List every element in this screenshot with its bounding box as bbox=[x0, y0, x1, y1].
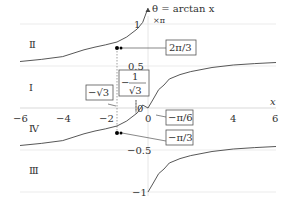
annotation-minus-pi6: −π/6 bbox=[166, 110, 193, 125]
svg-text:−π/6: −π/6 bbox=[168, 112, 193, 123]
svg-text:√3: √3 bbox=[129, 85, 142, 96]
curve-branch-3 bbox=[148, 147, 276, 193]
y-unit-label: ×π bbox=[153, 16, 165, 25]
region-4-label: Ⅳ bbox=[29, 123, 40, 134]
curve-branch-4 bbox=[20, 105, 148, 146]
arctan-chart: 1 0.5 0 −0.5 −1 −6 −4 −2 0 4 6 x θ = arc… bbox=[0, 0, 292, 210]
annotation-minus-inv-sqrt3: − 1 √3 bbox=[119, 70, 149, 96]
x-tick-6: 6 bbox=[272, 113, 278, 124]
y-axis-arrow-icon bbox=[146, 8, 151, 12]
y-tick-m05: −0.5 bbox=[127, 145, 151, 156]
x-tick-0: 0 bbox=[145, 113, 151, 124]
chart-svg: 1 0.5 0 −0.5 −1 −6 −4 −2 0 4 6 x θ = arc… bbox=[0, 0, 292, 210]
svg-text:1: 1 bbox=[132, 71, 138, 82]
x-tick-m4: −4 bbox=[56, 113, 71, 124]
y-tick-1: 1 bbox=[134, 19, 140, 30]
annotation-minus-sqrt3: −√3 bbox=[86, 85, 113, 100]
x-tick-4: 4 bbox=[230, 113, 236, 124]
annotation-minus-pi3: −π/3 bbox=[166, 130, 193, 145]
region-2-label: Ⅱ bbox=[29, 39, 36, 50]
curve-branch-1 bbox=[148, 63, 276, 109]
region-3-label: Ⅲ bbox=[29, 165, 39, 176]
y-tick-m1: −1 bbox=[132, 187, 147, 198]
point-upper bbox=[115, 46, 119, 50]
y-tick-0: 0 bbox=[137, 103, 143, 114]
svg-text:2π/3: 2π/3 bbox=[169, 42, 192, 53]
x-tick-m6: −6 bbox=[13, 113, 28, 124]
chart-title: θ = arctan x bbox=[152, 3, 215, 14]
x-tick-m2: −2 bbox=[99, 113, 114, 124]
svg-text:−√3: −√3 bbox=[88, 87, 109, 98]
x-axis-label: x bbox=[270, 96, 276, 107]
annotation-2pi3: 2π/3 bbox=[166, 40, 196, 55]
point-lower bbox=[115, 131, 119, 135]
region-1-label: Ⅰ bbox=[29, 82, 33, 93]
curve-branch-2 bbox=[20, 8, 148, 62]
svg-text:−π/3: −π/3 bbox=[168, 132, 193, 143]
